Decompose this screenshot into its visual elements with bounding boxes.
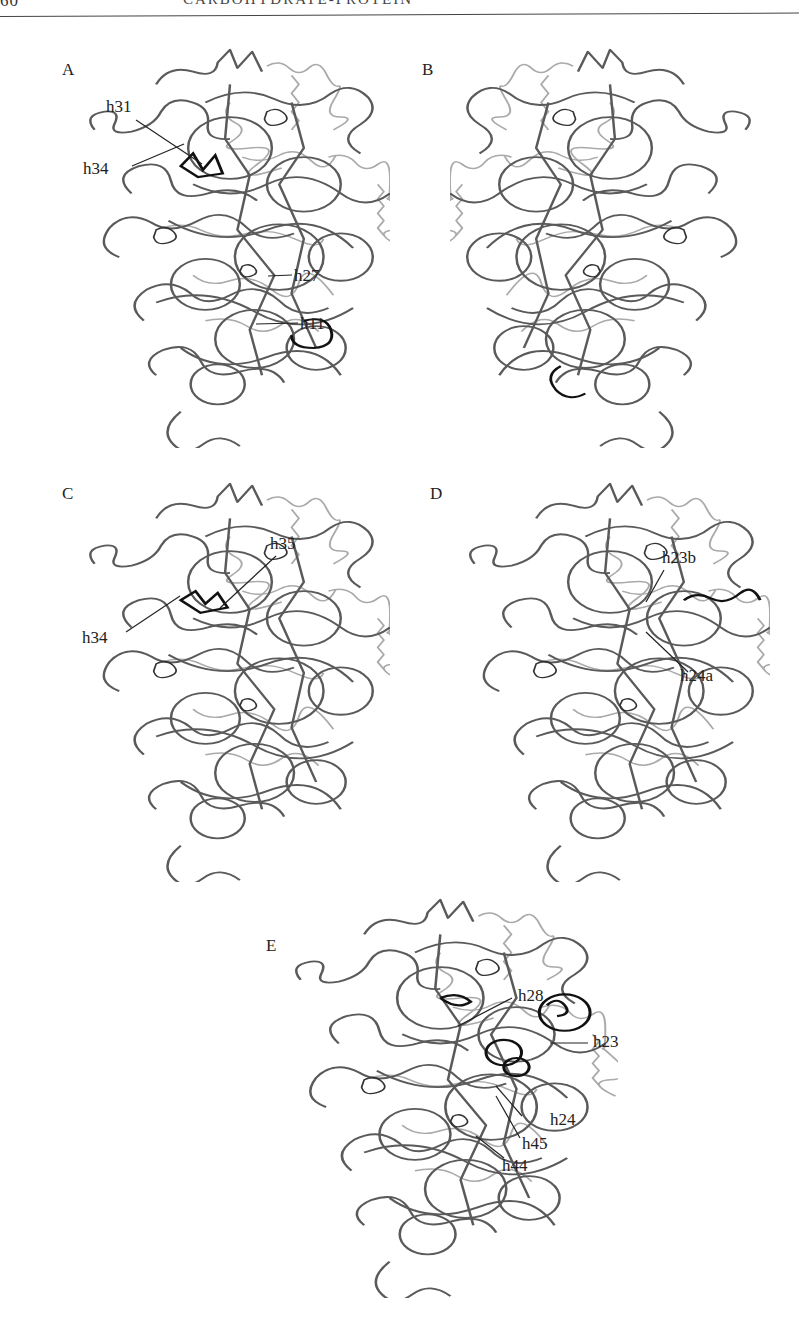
helix-label-h31: h31 <box>106 97 132 117</box>
leader-lines-c <box>70 482 390 882</box>
helix-label-h24: h24 <box>550 1110 576 1130</box>
figure-panel-d: D h23b h24a <box>450 482 770 882</box>
helix-label-h27: h27 <box>294 266 320 286</box>
leader-lines-e <box>260 898 660 1298</box>
helix-label-h34: h34 <box>82 628 108 648</box>
helix-label-h28: h28 <box>518 986 544 1006</box>
header-rule <box>0 13 799 17</box>
ribosome-structure-b <box>450 48 770 448</box>
helix-label-h44: h44 <box>502 1156 528 1176</box>
figure-panel-c: C h35 h34 <box>70 482 390 882</box>
running-head-title: CARBOHYDRATE-PROTEIN <box>183 0 413 8</box>
helix-label-h24a: h24a <box>680 666 713 686</box>
panel-letter-d: D <box>430 484 442 504</box>
leader-lines-d <box>450 482 770 882</box>
running-head: 60 CARBOHYDRATE-PROTEIN <box>0 0 799 11</box>
helix-label-h34: h34 <box>83 159 109 179</box>
figure-panel-b: B <box>460 48 780 448</box>
helix-label-h23: h23 <box>593 1032 619 1052</box>
page-number: 60 <box>0 0 19 11</box>
helix-label-h35: h35 <box>270 534 296 554</box>
helix-label-h11: h11 <box>300 314 325 334</box>
figure-panel-e: E h28 h23 h24 h45 h44 <box>260 898 660 1298</box>
helix-label-h23b: h23b <box>662 548 696 568</box>
helix-label-h45: h45 <box>522 1134 548 1154</box>
panel-letter-b: B <box>422 60 433 80</box>
figure-panel-a: A h31 h34 h27 h11 <box>70 48 390 448</box>
